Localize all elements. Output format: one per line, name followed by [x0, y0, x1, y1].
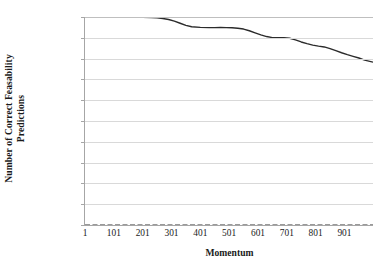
gridline [85, 225, 373, 226]
y-axis-tick-mark [81, 121, 84, 122]
chart-figure: Number of Correct Feasability Prediction… [0, 0, 388, 280]
x-axis-title: Momentum [85, 247, 374, 258]
series-line-correct-feasability-predictions [85, 17, 373, 62]
plot-area [85, 17, 373, 225]
x-axis-tick-label: 201 [136, 228, 150, 238]
y-axis-tick-mark [81, 59, 84, 60]
y-axis-tick-mark [81, 183, 84, 184]
x-axis-tick-label: 301 [164, 228, 178, 238]
y-axis-tick-mark [81, 142, 84, 143]
x-axis-tick-label: 101 [107, 228, 121, 238]
gridline [85, 17, 373, 18]
x-axis-tick-label: 1 [83, 228, 88, 238]
x-axis-tick-label: 701 [280, 228, 294, 238]
gridline [85, 59, 373, 60]
gridline [85, 163, 373, 164]
x-axis-tick-label: 501 [222, 228, 236, 238]
gridline [85, 204, 373, 205]
x-axis-tick-label: 401 [193, 228, 207, 238]
y-axis-tick-mark [81, 38, 84, 39]
y-axis-tick-mark [81, 79, 84, 80]
y-axis-tick-mark [81, 17, 84, 18]
gridline [85, 100, 373, 101]
gridline [85, 121, 373, 122]
gridline [85, 183, 373, 184]
y-axis-tick-mark [81, 100, 84, 101]
gridline [85, 79, 373, 80]
x-axis-tick-label: 901 [337, 228, 351, 238]
gridline [85, 142, 373, 143]
gridline [85, 38, 373, 39]
y-axis-tick-mark [81, 163, 84, 164]
y-axis-tick-mark [81, 225, 84, 226]
y-axis-tick-mark [81, 204, 84, 205]
x-axis-tick-label: 601 [251, 228, 265, 238]
x-axis-tick-label: 801 [309, 228, 323, 238]
y-axis-title-line-2: Predictions [14, 19, 26, 219]
y-axis-title: Number of Correct Feasability Prediction… [3, 19, 26, 219]
y-axis-title-line-1: Number of Correct Feasability [3, 19, 15, 219]
